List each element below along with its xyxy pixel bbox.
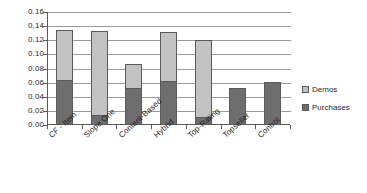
x-axis-tick-mark <box>82 125 83 129</box>
bar-group[interactable] <box>125 12 142 125</box>
demos-swatch-icon <box>302 86 309 93</box>
bar-segment-demos[interactable] <box>160 32 177 81</box>
stacked-bar-chart: 0.000.020.040.060.080.100.120.140.16 CF … <box>0 0 367 193</box>
y-axis: 0.000.020.040.060.080.100.120.140.16 <box>0 12 44 125</box>
legend-item-label: Purchases <box>312 103 350 112</box>
bar-stack <box>160 32 177 125</box>
bar-group[interactable] <box>160 12 177 125</box>
bar-group[interactable] <box>56 12 73 125</box>
legend-item-label: Demos <box>312 85 337 94</box>
x-axis-tick-mark <box>186 125 187 129</box>
y-axis-tick-label: 0.12 <box>0 36 44 44</box>
x-axis-tick-mark <box>255 125 256 129</box>
y-axis-tick-label: 0.02 <box>0 107 44 115</box>
y-axis-tick-label: 0.14 <box>0 22 44 30</box>
bar-group[interactable] <box>264 12 281 125</box>
x-axis-tick-mark <box>151 125 152 129</box>
x-axis-tick-mark <box>221 125 222 129</box>
y-axis-tick-label: 0.08 <box>0 65 44 73</box>
bar-segment-demos[interactable] <box>195 40 212 116</box>
bar-segment-demos[interactable] <box>91 31 108 115</box>
x-axis-tick-mark <box>47 125 48 129</box>
x-axis-tick-mark <box>290 125 291 129</box>
y-axis-tick-label: 0.10 <box>0 50 44 58</box>
bars-layer <box>47 12 290 125</box>
y-axis-tick-label: 0.00 <box>0 121 44 129</box>
purchases-swatch-icon <box>302 104 309 111</box>
bar-group[interactable] <box>229 12 246 125</box>
bar-segment-demos[interactable] <box>56 30 73 80</box>
legend-item[interactable]: Demos <box>302 82 366 96</box>
bar-group[interactable] <box>91 12 108 125</box>
y-axis-tick-label: 0.04 <box>0 93 44 101</box>
legend-item[interactable]: Purchases <box>302 100 366 114</box>
bar-segment-demos[interactable] <box>125 64 142 87</box>
x-axis-tick-mark <box>116 125 117 129</box>
chart-legend: DemosPurchases <box>302 82 366 118</box>
y-axis-tick-label: 0.06 <box>0 79 44 87</box>
y-axis-tick-label: 0.16 <box>0 8 44 16</box>
bar-group[interactable] <box>195 12 212 125</box>
